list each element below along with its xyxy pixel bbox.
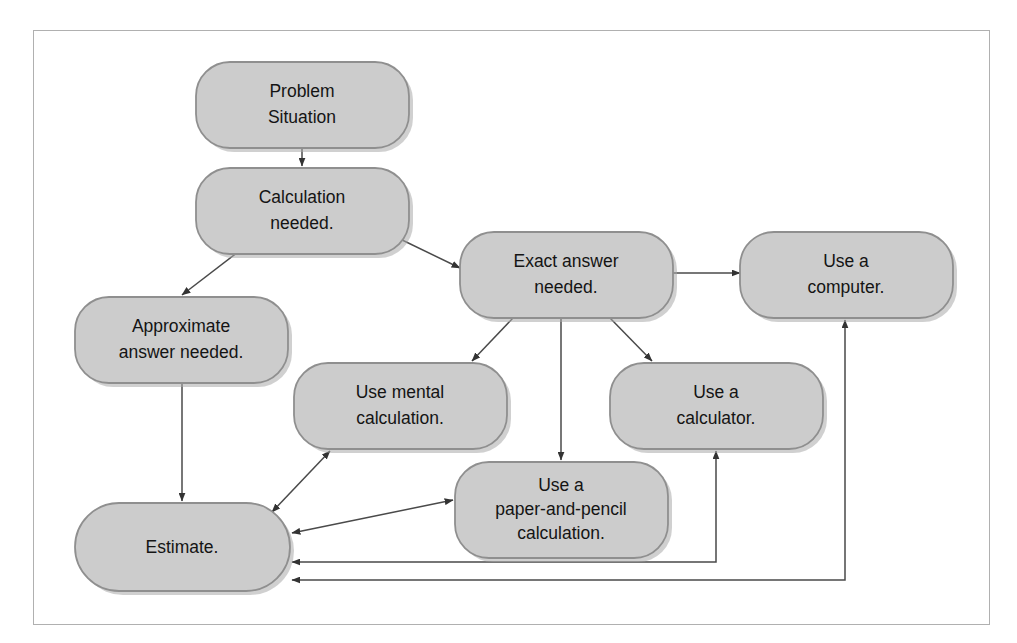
node-calculation-needed[interactable]: Calculation needed. — [196, 168, 413, 258]
node-layer: Problem Situation Calculation needed. Ex… — [75, 62, 957, 595]
diagram-page: Problem Situation Calculation needed. Ex… — [0, 0, 1017, 643]
node-problem-situation[interactable]: Problem Situation — [196, 62, 413, 152]
node-use-paper-and-pencil[interactable]: Use a paper-and-pencil calculation. — [455, 462, 672, 562]
edge-estimate-to-mental — [272, 451, 330, 512]
node-use-a-computer[interactable]: Use a computer. — [740, 232, 957, 322]
node-use-mental-calculation[interactable]: Use mental calculation. — [294, 363, 511, 453]
flowchart-canvas: Problem Situation Calculation needed. Ex… — [0, 0, 1017, 643]
node-exact-answer-needed[interactable]: Exact answer needed. — [460, 232, 677, 322]
edge-exact-to-calculator — [610, 318, 652, 361]
edge-calculation-to-approximate — [182, 252, 238, 295]
edge-estimate-to-paper-pencil — [292, 500, 453, 533]
node-approximate-answer-needed[interactable]: Approximate answer needed. — [75, 297, 292, 387]
node-estimate[interactable]: Estimate. — [75, 503, 294, 595]
edge-exact-to-mental — [472, 318, 513, 361]
node-use-a-calculator[interactable]: Use a calculator. — [610, 363, 827, 453]
